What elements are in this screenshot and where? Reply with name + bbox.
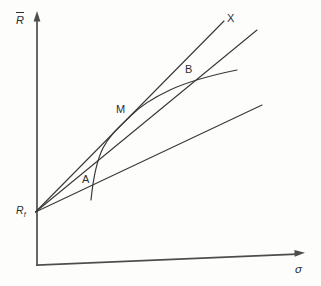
point-a-label: A	[82, 174, 90, 185]
capital-market-line-figure: R Rf A M B X σ	[0, 0, 321, 286]
x-axis-line	[37, 254, 296, 265]
x-axis-arrowhead	[294, 250, 305, 257]
x-axis-label: σ	[295, 264, 302, 276]
diagram-canvas	[0, 0, 321, 286]
y-axis-label: R	[16, 12, 24, 26]
point-b-label: B	[185, 64, 193, 75]
point-x-label: X	[227, 13, 235, 24]
y-axis-arrowhead	[34, 11, 41, 22]
y-axis-label-rbar-text: R	[16, 12, 24, 26]
point-m-label: M	[116, 104, 125, 115]
rf-b-line	[36, 30, 258, 212]
efficient-frontier-curve	[91, 70, 237, 200]
risk-free-rate-subscript: f	[24, 211, 26, 218]
rf-a-line	[36, 105, 263, 212]
risk-free-rate-symbol: R	[16, 204, 24, 216]
risk-free-rate-label: Rf	[16, 205, 26, 218]
